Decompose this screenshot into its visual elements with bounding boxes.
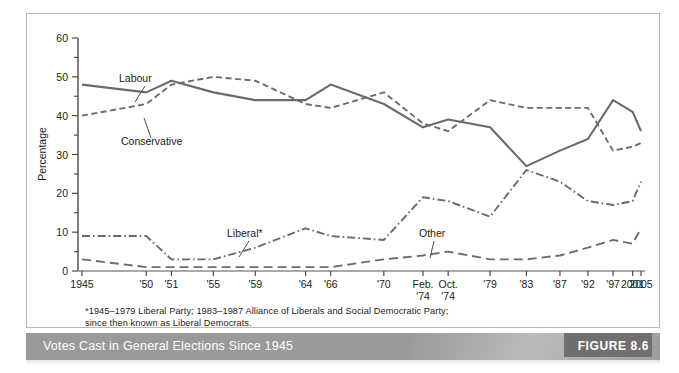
y-tick-label: 30 — [56, 149, 68, 161]
x-tick-label: '51 — [165, 278, 179, 290]
line-chart-svg: 0102030405060 1945'50'51'55'59'64'66'70F… — [27, 14, 661, 329]
x-axis-tick-labels: 1945'50'51'55'59'64'66'70Feb.'74Oct.'74'… — [70, 278, 653, 302]
annotation-leader-line — [135, 86, 145, 102]
figure-container: 0102030405060 1945'50'51'55'59'64'66'70F… — [0, 0, 679, 373]
x-tick-label: 2005 — [629, 278, 653, 290]
x-tick-label: '83 — [520, 278, 534, 290]
y-tick-label: 40 — [56, 110, 68, 122]
y-tick-label: 0 — [62, 265, 68, 277]
x-tick-label: '70 — [377, 278, 391, 290]
y-tick-label: 50 — [56, 71, 68, 83]
x-tick-label: 1945 — [70, 278, 94, 290]
chart-card: 0102030405060 1945'50'51'55'59'64'66'70F… — [26, 13, 660, 328]
x-tick-label: '66 — [324, 278, 338, 290]
x-tick-label: '55 — [207, 278, 221, 290]
caption-bar: Votes Cast in General Elections Since 19… — [26, 333, 660, 360]
x-tick-label: '50 — [139, 278, 153, 290]
figure-tag-label: FIGURE 8.6 — [578, 339, 649, 353]
axes — [78, 38, 645, 271]
y-tick-label: 10 — [56, 226, 68, 238]
footnote-line-1: *1945–1979 Liberal Party; 1983–1987 Alli… — [85, 306, 605, 318]
x-tick-label: '97 — [606, 278, 620, 290]
y-axis-title: Percentage — [36, 127, 48, 181]
x-tick-label: '79 — [483, 278, 497, 290]
series-line-labour — [82, 81, 641, 166]
x-tick-label: '59 — [248, 278, 262, 290]
series-line-liberal — [82, 170, 641, 259]
series-label-liberal: Liberal* — [227, 227, 263, 239]
footnote-line-2: since then known as Liberal Democrats. — [85, 318, 605, 330]
x-axis-ticks — [82, 271, 641, 276]
x-tick-label: Oct.'74 — [439, 278, 458, 302]
x-tick-label: '64 — [299, 278, 313, 290]
y-axis-ticks — [72, 38, 78, 271]
series-label-conservative: Conservative — [121, 135, 182, 147]
x-tick-label: Feb.'74 — [412, 278, 433, 302]
figure-caption: Votes Cast in General Elections Since 19… — [43, 339, 293, 353]
annotation-leader-line — [430, 241, 434, 258]
y-axis-tick-labels: 0102030405060 — [56, 32, 68, 277]
footnote: *1945–1979 Liberal Party; 1983–1987 Alli… — [85, 306, 605, 329]
caption-shadow — [26, 360, 660, 365]
y-tick-label: 60 — [56, 32, 68, 44]
data-series-group — [82, 77, 641, 267]
x-tick-label: '87 — [553, 278, 567, 290]
series-label-other: Other — [419, 227, 446, 239]
series-line-other — [82, 228, 641, 267]
series-label-labour: Labour — [119, 72, 152, 84]
y-tick-label: 20 — [56, 187, 68, 199]
plot-area: 0102030405060 1945'50'51'55'59'64'66'70F… — [27, 14, 661, 329]
x-tick-label: '92 — [581, 278, 595, 290]
